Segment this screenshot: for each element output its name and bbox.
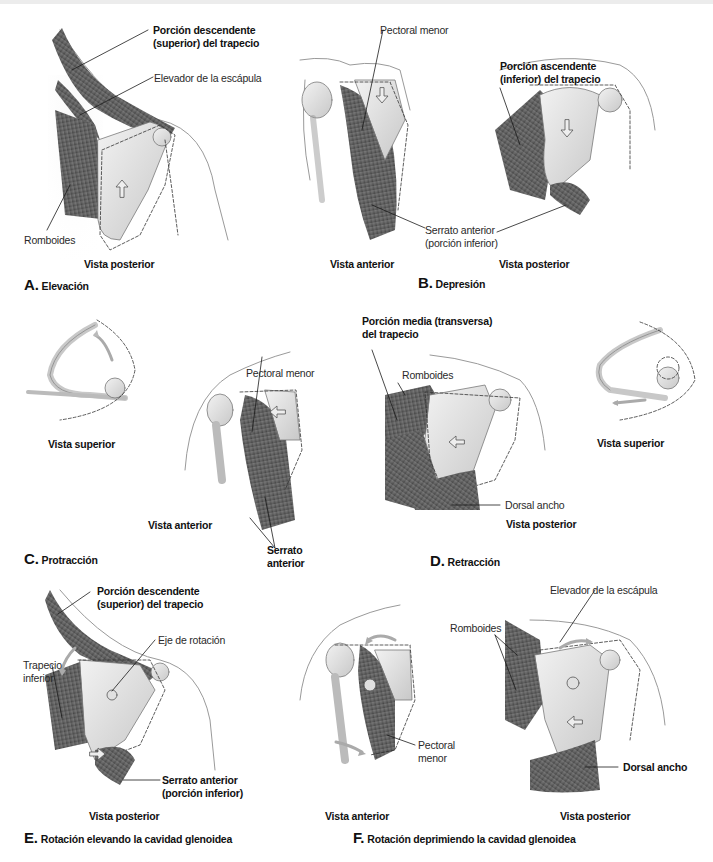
panel-b-title: Depresión	[436, 278, 486, 290]
label-trapezius-superior-line1: Porción descendente	[97, 585, 199, 598]
view-label-anterior: Vista anterior	[325, 810, 389, 822]
panel-d-caption: D.Retracción	[430, 552, 500, 569]
label-serratus-line1: Serrato	[267, 544, 302, 557]
view-label-posterior: Vista posterior	[499, 258, 569, 270]
panel-c-caption: C.Protracción	[24, 550, 98, 567]
label-trapezius-superior-line1: Porción descendente	[153, 24, 255, 37]
label-serratus-anterior-line2: (porción inferior)	[162, 787, 243, 800]
panel-a-letter: A.	[24, 276, 39, 293]
view-label-anterior: Vista anterior	[330, 258, 394, 270]
label-serratus-anterior-line1: Serrato anterior	[162, 774, 238, 787]
label-trapezius-superior-line2: (superior) del trapecio	[97, 598, 203, 611]
label-pectoralis-minor: Pectoral menor	[246, 367, 314, 380]
panel-c-letter: C.	[24, 550, 39, 567]
label-trapezius-middle-line2: del trapecio	[362, 328, 419, 341]
view-label-posterior: Vista posterior	[560, 810, 630, 822]
view-label-posterior: Vista posterior	[506, 518, 576, 530]
label-levator-scapulae: Elevador de la escápula	[550, 584, 657, 597]
panel-c-superior-art	[28, 320, 135, 420]
anatomy-illustrations	[0, 0, 713, 862]
view-label-superior: Vista superior	[48, 438, 115, 450]
panel-f-title: Rotación deprimiendo la cavidad glenoide…	[367, 833, 575, 845]
label-rhomboids: Romboides	[24, 234, 75, 247]
label-levator-scapulae: Elevador de la escápula	[154, 72, 261, 85]
panel-f-anterior-art	[300, 605, 415, 760]
view-label-superior: Vista superior	[597, 437, 664, 449]
label-serratus-line2: anterior	[267, 557, 305, 570]
label-axis-of-rotation: Eje de rotación	[158, 634, 225, 647]
panel-c-title: Protracción	[42, 554, 98, 566]
panel-f-caption: F.Rotación deprimiendo la cavidad glenoi…	[353, 829, 576, 846]
label-pectoralis-minor-line2: menor	[418, 752, 447, 765]
panel-e-art	[45, 590, 215, 785]
view-label-anterior: Vista anterior	[148, 519, 212, 531]
panel-d-title: Retracción	[448, 556, 500, 568]
panel-b-anterior-art	[300, 30, 425, 240]
label-trapezius-inferior-line1: Porción ascendente	[500, 60, 596, 73]
label-rhomboids: Romboides	[402, 369, 453, 382]
panel-e-title: Rotación elevando la cavidad glenoidea	[41, 833, 232, 845]
panel-e-caption: E.Rotación elevando la cavidad glenoidea	[24, 829, 232, 846]
panel-d-posterior-art	[372, 350, 545, 510]
label-latissimus-dorsi: Dorsal ancho	[623, 761, 687, 774]
panel-a-caption: A.Elevación	[24, 276, 89, 293]
label-trapezius-inferior-line2: inferior	[23, 672, 54, 685]
panel-a-title: Elevación	[42, 280, 89, 292]
label-trapezius-middle-line1: Porción media (transversa)	[362, 315, 492, 328]
label-trapezius-inferior-line2: (inferior) del trapecio	[500, 73, 600, 86]
panel-d-superior-art	[599, 322, 695, 420]
panel-e-letter: E.	[24, 829, 38, 846]
view-label-posterior: Vista posterior	[89, 810, 159, 822]
panel-b-caption: B.Depresión	[418, 274, 485, 291]
panel-d-letter: D.	[430, 552, 445, 569]
label-pectoralis-minor: Pectoral menor	[380, 24, 448, 37]
label-pectoralis-minor-line1: Pectoral	[418, 739, 455, 752]
label-serratus-anterior-line1: Serrato anterior	[425, 224, 495, 237]
label-trapezius-superior-line2: (superior) del trapecio	[153, 37, 259, 50]
label-serratus-anterior-line2: (porción inferior)	[425, 237, 498, 250]
panel-a-art	[47, 28, 228, 260]
panel-f-letter: F.	[353, 829, 364, 846]
label-latissimus-dorsi: Dorsal ancho	[505, 499, 564, 512]
panel-b-letter: B.	[418, 274, 433, 291]
label-rhomboids: Romboides	[450, 622, 501, 635]
label-trapezius-inferior-line1: Trapecio	[23, 659, 62, 672]
view-label-posterior: Vista posterior	[84, 258, 154, 270]
